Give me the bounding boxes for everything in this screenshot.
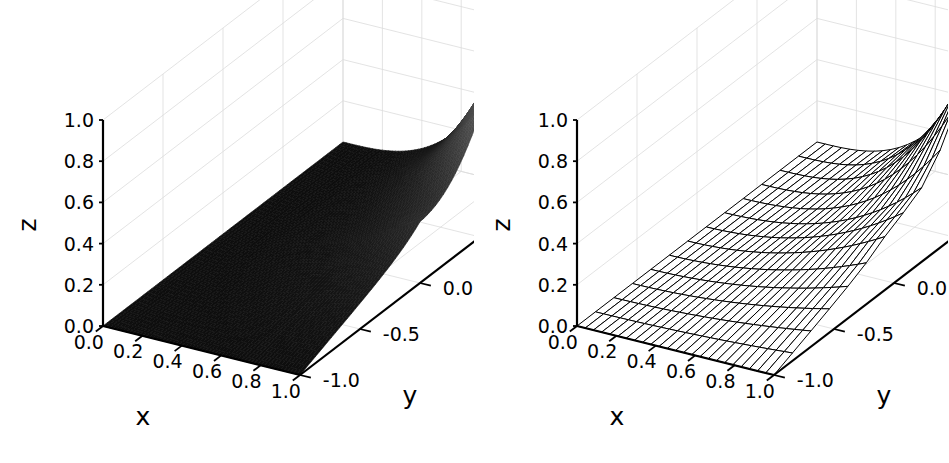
z-tick-label: 1.0 xyxy=(64,109,94,131)
y-tick-mark xyxy=(420,283,431,286)
z-axis-title: z xyxy=(487,218,516,231)
z-tick-label: 0.8 xyxy=(64,150,94,172)
back-wall-gridline-horizontal xyxy=(343,0,474,26)
y-tick-mark xyxy=(834,329,845,332)
back-wall-gridline-horizontal xyxy=(343,60,474,109)
figure-canvas: 0.00.20.40.60.81.00.00.20.40.60.81.0-1.0… xyxy=(0,0,949,463)
y-tick-mark xyxy=(894,283,905,286)
x-tick-label: 1.0 xyxy=(271,380,301,402)
y-tick-label: -0.5 xyxy=(857,323,894,345)
back-wall-gridline-horizontal xyxy=(817,60,948,109)
z-tick-label: 0.4 xyxy=(64,233,94,255)
y-tick-label: -0.5 xyxy=(383,323,420,345)
y-axis-title: y xyxy=(877,381,892,410)
y-tick-label: -1.0 xyxy=(797,369,834,391)
x-tick-label: 0.0 xyxy=(548,331,578,353)
wireframe-cell xyxy=(946,79,948,108)
z-axis-title: z xyxy=(13,218,42,231)
x-tick-label: 0.2 xyxy=(113,340,143,362)
surface-mesh xyxy=(103,0,474,375)
y-tick-label: 0.0 xyxy=(443,277,473,299)
x-tick-label: 0.6 xyxy=(666,360,696,382)
back-wall-gridline-horizontal xyxy=(817,0,948,26)
wireframe-mesh xyxy=(577,0,948,375)
y-tick-label: 0.0 xyxy=(917,277,947,299)
x-axis-title: x xyxy=(136,402,151,431)
z-tick-label: 1.0 xyxy=(538,109,568,131)
x-tick-label: 1.0 xyxy=(745,380,775,402)
y-tick-mark xyxy=(774,375,785,378)
wireframe-plot-panel-right[interactable]: 0.00.20.40.60.81.00.00.20.40.60.81.0-1.0… xyxy=(474,0,948,463)
x-tick-label: 0.6 xyxy=(192,360,222,382)
y-tick-mark xyxy=(300,375,311,378)
surface-plot-svg: 0.00.20.40.60.81.00.00.20.40.60.81.0-1.0… xyxy=(0,0,474,463)
back-wall-gridline-horizontal xyxy=(343,18,474,67)
y-tick-label: -1.0 xyxy=(323,369,360,391)
x-tick-label: 0.8 xyxy=(705,370,735,392)
surface-plot-panel-left[interactable]: 0.00.20.40.60.81.00.00.20.40.60.81.0-1.0… xyxy=(0,0,474,463)
z-tick-label: 0.6 xyxy=(64,191,94,213)
z-tick-label: 0.2 xyxy=(64,274,94,296)
x-tick-label: 0.0 xyxy=(74,331,104,353)
z-tick-label: 0.6 xyxy=(538,191,568,213)
back-wall-gridline-horizontal xyxy=(817,18,948,67)
z-tick-label: 0.4 xyxy=(538,233,568,255)
x-tick-label: 0.4 xyxy=(152,350,182,372)
z-tick-label: 0.2 xyxy=(538,274,568,296)
wireframe-cell xyxy=(944,64,948,110)
y-axis-title: y xyxy=(403,381,418,410)
x-axis-title: x xyxy=(610,402,625,431)
x-tick-label: 0.2 xyxy=(587,340,617,362)
y-tick-mark xyxy=(360,329,371,332)
wireframe-plot-svg: 0.00.20.40.60.81.00.00.20.40.60.81.0-1.0… xyxy=(474,0,948,463)
x-tick-label: 0.8 xyxy=(231,370,261,392)
z-tick-label: 0.8 xyxy=(538,150,568,172)
x-tick-label: 0.4 xyxy=(626,350,656,372)
